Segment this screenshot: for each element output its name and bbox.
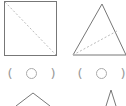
- circle-mark-icon: [96, 68, 107, 79]
- circle-mark-icon: [26, 68, 37, 79]
- peak-figure-partial: [106, 90, 116, 106]
- answer-slot-1[interactable]: ( ): [6, 64, 57, 82]
- open-paren: (: [76, 66, 84, 81]
- close-paren: ): [49, 66, 57, 81]
- close-paren: ): [119, 66, 126, 81]
- triangle-figure: [73, 4, 126, 55]
- roof-figure-partial: [16, 93, 50, 106]
- open-paren: (: [6, 66, 14, 81]
- figures-canvas: [0, 0, 126, 106]
- answer-slot-2[interactable]: ( ): [76, 64, 126, 82]
- square-fold-line: [5, 2, 56, 55]
- square-figure: [5, 2, 57, 56]
